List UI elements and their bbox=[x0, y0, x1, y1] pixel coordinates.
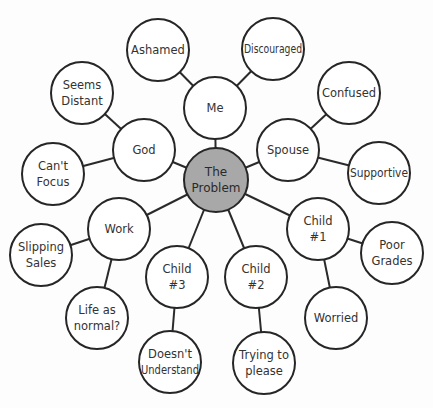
node-supportive: Supportive bbox=[348, 142, 410, 204]
node-child3: Child#3 bbox=[146, 246, 208, 308]
node-label: Problem bbox=[191, 181, 240, 195]
node-trying-to-please: Trying toplease bbox=[233, 332, 295, 394]
node-god: God bbox=[113, 119, 175, 181]
node-label: Seems bbox=[63, 78, 102, 92]
node-label: Child bbox=[303, 214, 332, 228]
node-label: please bbox=[245, 364, 283, 378]
node-circle bbox=[66, 287, 128, 349]
node-ashamed: Ashamed bbox=[127, 19, 189, 81]
node-spouse: Spouse bbox=[257, 119, 319, 181]
node-label: Sales bbox=[26, 256, 57, 270]
node-label: Discouraged bbox=[244, 42, 302, 56]
node-label: Distant bbox=[61, 94, 103, 108]
node-problem: TheProblem bbox=[184, 148, 248, 212]
node-label: Understand bbox=[141, 363, 199, 377]
node-life-as-normal: Life asnormal? bbox=[66, 287, 128, 349]
node-worried: Worried bbox=[305, 287, 367, 349]
node-label: Worried bbox=[314, 311, 359, 325]
node-circle bbox=[225, 246, 287, 308]
node-label: Confused bbox=[322, 86, 376, 100]
node-slipping-sales: SlippingSales bbox=[10, 224, 72, 286]
node-seems-distant: SeemsDistant bbox=[51, 62, 113, 124]
node-label: Grades bbox=[371, 254, 412, 268]
node-label: Child bbox=[241, 262, 270, 276]
node-cant-focus: Can'tFocus bbox=[22, 143, 84, 205]
node-child1: Child#1 bbox=[287, 198, 349, 260]
node-label: Poor bbox=[379, 238, 405, 252]
node-confused: Confused bbox=[318, 62, 380, 124]
node-circle bbox=[139, 331, 201, 393]
node-label: Child bbox=[162, 262, 191, 276]
node-label: #3 bbox=[169, 278, 186, 292]
node-work: Work bbox=[88, 198, 150, 260]
node-label: God bbox=[132, 143, 155, 157]
node-circle bbox=[51, 62, 113, 124]
node-label: Me bbox=[207, 101, 224, 115]
node-label: Work bbox=[104, 222, 133, 236]
bubble-nodes: TheProblemMeGodSpouseWorkChild#1Child#3C… bbox=[10, 18, 423, 394]
node-label: Ashamed bbox=[131, 43, 185, 57]
node-label: Spouse bbox=[267, 143, 309, 157]
node-circle bbox=[184, 148, 248, 212]
node-circle bbox=[146, 246, 208, 308]
node-circle bbox=[361, 222, 423, 284]
node-discouraged: Discouraged bbox=[242, 18, 304, 80]
node-me: Me bbox=[184, 77, 246, 139]
node-circle bbox=[22, 143, 84, 205]
node-label: Focus bbox=[37, 175, 70, 189]
node-circle bbox=[10, 224, 72, 286]
node-circle bbox=[287, 198, 349, 260]
node-label: Supportive bbox=[350, 166, 408, 180]
node-label: #1 bbox=[310, 230, 327, 244]
node-label: Slipping bbox=[18, 240, 64, 254]
node-label: Trying to bbox=[238, 348, 289, 362]
node-label: Doesn't bbox=[148, 347, 192, 361]
node-label: normal? bbox=[74, 319, 120, 333]
node-doesnt-understand: Doesn'tUnderstand bbox=[139, 331, 201, 393]
node-circle bbox=[233, 332, 295, 394]
node-label: Life as bbox=[78, 303, 115, 317]
problem-mind-map: TheProblemMeGodSpouseWorkChild#1Child#3C… bbox=[0, 0, 433, 408]
node-label: Can't bbox=[38, 159, 69, 173]
node-child2: Child#2 bbox=[225, 246, 287, 308]
node-label: #2 bbox=[248, 278, 265, 292]
node-poor-grades: PoorGrades bbox=[361, 222, 423, 284]
node-label: The bbox=[204, 165, 227, 179]
